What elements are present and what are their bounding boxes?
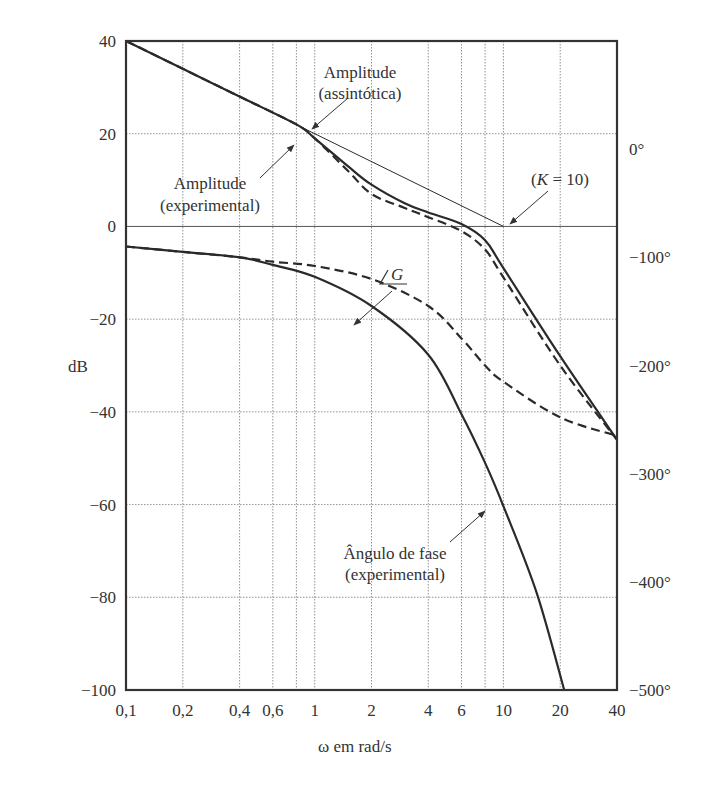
- y-tick-label: −100: [81, 681, 116, 700]
- x-tick-label: 0,2: [172, 701, 193, 720]
- svg-text:(assintótica): (assintótica): [318, 84, 401, 103]
- bode-chart: 0,10,20,40,6124610204040200−20−40−60−80−…: [0, 0, 727, 788]
- x-axis-label: ω em rad/s: [318, 737, 392, 756]
- x-tick-label: 40: [609, 701, 626, 720]
- series-ngulo-de-fase-experimental: [126, 247, 564, 691]
- svg-text:(experimental): (experimental): [160, 196, 260, 215]
- y-tick-label: −80: [89, 588, 116, 607]
- y-axis-label: dB: [68, 357, 88, 376]
- annotation-amplitude-experimental: Amplitude (experimental): [160, 145, 294, 215]
- annotation-amplitude-asymptotic: Amplitude (assintótica): [312, 63, 402, 129]
- y-tick-label: −60: [89, 496, 116, 515]
- grid: [126, 41, 617, 690]
- x-tick-label: 1: [310, 701, 319, 720]
- tick-labels: 0,10,20,40,6124610204040200−20−40−60−80−…: [81, 32, 671, 720]
- y-right-tick-label: −100°: [629, 248, 671, 267]
- x-tick-label: 10: [495, 701, 512, 720]
- y-tick-label: 0: [108, 217, 117, 236]
- x-tick-label: 2: [367, 701, 376, 720]
- svg-text:(K = 10): (K = 10): [531, 170, 589, 189]
- y-right-tick-label: −500°: [629, 681, 671, 700]
- svg-text:Ângulo de fase: Ângulo de fase: [344, 544, 447, 563]
- x-tick-label: 6: [457, 701, 466, 720]
- annotation-k-equals-10: (K = 10): [510, 170, 589, 224]
- x-tick-label: 0,6: [262, 701, 283, 720]
- y-tick-label: 40: [99, 32, 116, 51]
- x-tick-label: 0,1: [115, 701, 136, 720]
- annotation-angle-g: G: [354, 265, 407, 325]
- y-right-tick-label: −400°: [629, 573, 671, 592]
- x-tick-label: 4: [424, 701, 433, 720]
- annotation-phase-experimental: Ângulo de fase (experimental): [344, 511, 485, 584]
- x-tick-label: 0,4: [229, 701, 251, 720]
- svg-text:Amplitude: Amplitude: [324, 63, 397, 82]
- svg-text:Amplitude: Amplitude: [174, 174, 247, 193]
- y-tick-label: −20: [89, 310, 116, 329]
- y-tick-label: 20: [99, 125, 116, 144]
- svg-text:G: G: [391, 265, 403, 284]
- y-tick-label: −40: [89, 403, 116, 422]
- y-right-tick-label: 0°: [629, 140, 644, 159]
- y-right-tick-label: −200°: [629, 357, 671, 376]
- y-right-tick-label: −300°: [629, 465, 671, 484]
- x-tick-label: 20: [552, 701, 569, 720]
- svg-text:(experimental): (experimental): [345, 565, 445, 584]
